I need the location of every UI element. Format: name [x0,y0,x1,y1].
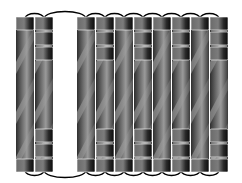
helix-1-cap-1 [16,17,34,30]
helix-6 [134,17,153,172]
helix-4-cap-2 [96,32,114,45]
helix-4-cap-6 [96,159,114,172]
helix-5 [115,17,134,172]
helix-2-cap-5 [35,144,53,157]
helix-8-cap-2 [172,32,190,45]
helix-7 [153,17,172,172]
helix-5-cap-2 [115,159,133,172]
helix-2 [35,17,54,172]
helix-10-cap-1 [210,17,228,30]
helix-9-cap-2 [191,159,209,172]
helix-3-cap-2 [77,159,95,172]
helix-2-cap-4 [35,129,53,142]
helix-3-cap-1 [77,17,95,30]
helix-4-cap-4 [96,129,114,142]
helix-10-cap-3 [210,47,228,60]
helix-5-cap-1 [115,17,133,30]
helix-7-cap-2 [153,159,171,172]
helix-9-cap-1 [191,17,209,30]
helix-9 [191,17,210,172]
helix-2-cap-1 [35,17,53,30]
helix-6-cap-4 [134,129,152,142]
helix-6-cap-5 [134,144,152,157]
helix-3 [77,17,96,172]
helix-7-cap-1 [153,17,171,30]
helix-10-cap-5 [210,144,228,157]
helix-bundle-diagram [0,0,242,183]
helix-4-cap-1 [96,17,114,30]
helix-8-cap-5 [172,144,190,157]
helix-2-cap-3 [35,47,53,60]
helix-8-cap-6 [172,159,190,172]
helix-1 [16,17,35,172]
helix-8-cap-3 [172,47,190,60]
helix-2-cap-6 [35,159,53,172]
helix-10 [210,17,229,172]
helix-4-cap-3 [96,47,114,60]
helix-8-cap-1 [172,17,190,30]
helix-10-cap-2 [210,32,228,45]
helix-6-cap-1 [134,17,152,30]
helix-8 [172,17,191,172]
helix-4 [96,17,115,172]
helix-10-cap-6 [210,159,228,172]
helix-6-cap-3 [134,47,152,60]
helix-4-cap-5 [96,144,114,157]
helix-2-cap-2 [35,32,53,45]
helix-6-cap-2 [134,32,152,45]
helix-10-cap-4 [210,129,228,142]
helix-8-cap-4 [172,129,190,142]
helix-6-cap-6 [134,159,152,172]
helix-rods [16,17,229,172]
helix-1-cap-2 [16,159,34,172]
